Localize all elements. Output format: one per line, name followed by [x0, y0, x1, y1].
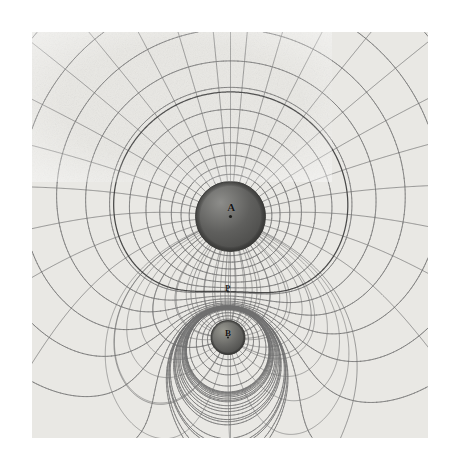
field-map-svg — [32, 32, 428, 438]
field-map-plate — [32, 32, 428, 438]
sphere-a-label: A — [227, 202, 235, 213]
sphere-b-label: B — [225, 329, 231, 338]
point-p-label: P — [225, 285, 230, 293]
figure-page: A B P — [0, 0, 455, 471]
